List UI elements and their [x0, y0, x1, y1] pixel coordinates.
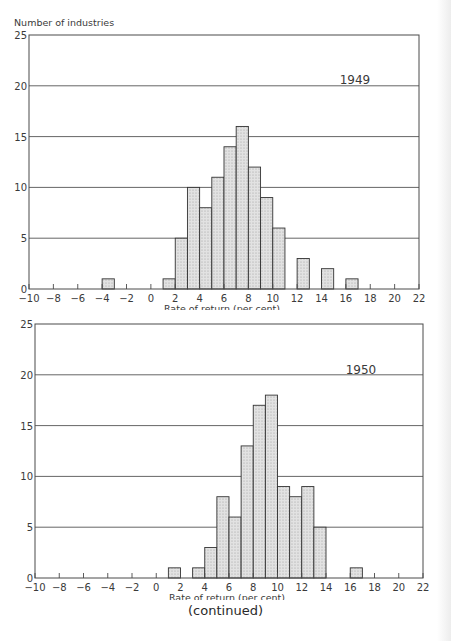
x-tick-label: 16: [344, 582, 357, 593]
histogram-bar: [193, 568, 205, 578]
histogram-1950: −10−8−6−4−202468101214161820220510152025…: [0, 0, 451, 600]
x-tick-label: 20: [392, 582, 405, 593]
y-tick-label: 5: [27, 522, 33, 533]
x-tick-label: −8: [52, 582, 67, 593]
histogram-bar: [229, 517, 241, 578]
x-tick-label: 18: [368, 582, 381, 593]
x-tick-label: 12: [295, 582, 308, 593]
histogram-bar: [168, 568, 180, 578]
chart-1950: −10−8−6−4−202468101214161820220510152025…: [0, 0, 451, 641]
histogram-bar: [205, 548, 217, 578]
y-tick-label: 0: [27, 573, 33, 584]
histogram-bar: [314, 527, 326, 578]
y-tick-label: 25: [20, 319, 33, 330]
histogram-bar: [278, 487, 290, 578]
histogram-bar: [290, 497, 302, 578]
histogram-bar: [241, 446, 253, 578]
x-tick-label: −2: [125, 582, 140, 593]
y-tick-label: 20: [20, 370, 33, 381]
x-tick-label: 0: [153, 582, 159, 593]
x-tick-label: −4: [100, 582, 115, 593]
histogram-bar: [350, 568, 362, 578]
x-tick-label: 14: [320, 582, 333, 593]
histogram-bar: [302, 487, 314, 578]
continued-caption: (continued): [0, 603, 451, 618]
x-tick-label: −6: [76, 582, 91, 593]
page-edge-shadow: [437, 0, 451, 641]
histogram-bar: [253, 405, 265, 578]
x-axis-title: Rate of return (per cent): [169, 592, 285, 600]
y-tick-label: 15: [20, 421, 33, 432]
year-label: 1950: [346, 363, 377, 377]
histogram-bar: [265, 395, 277, 578]
histogram-bar: [217, 497, 229, 578]
y-tick-label: 10: [20, 471, 33, 482]
x-tick-label: 22: [417, 582, 430, 593]
